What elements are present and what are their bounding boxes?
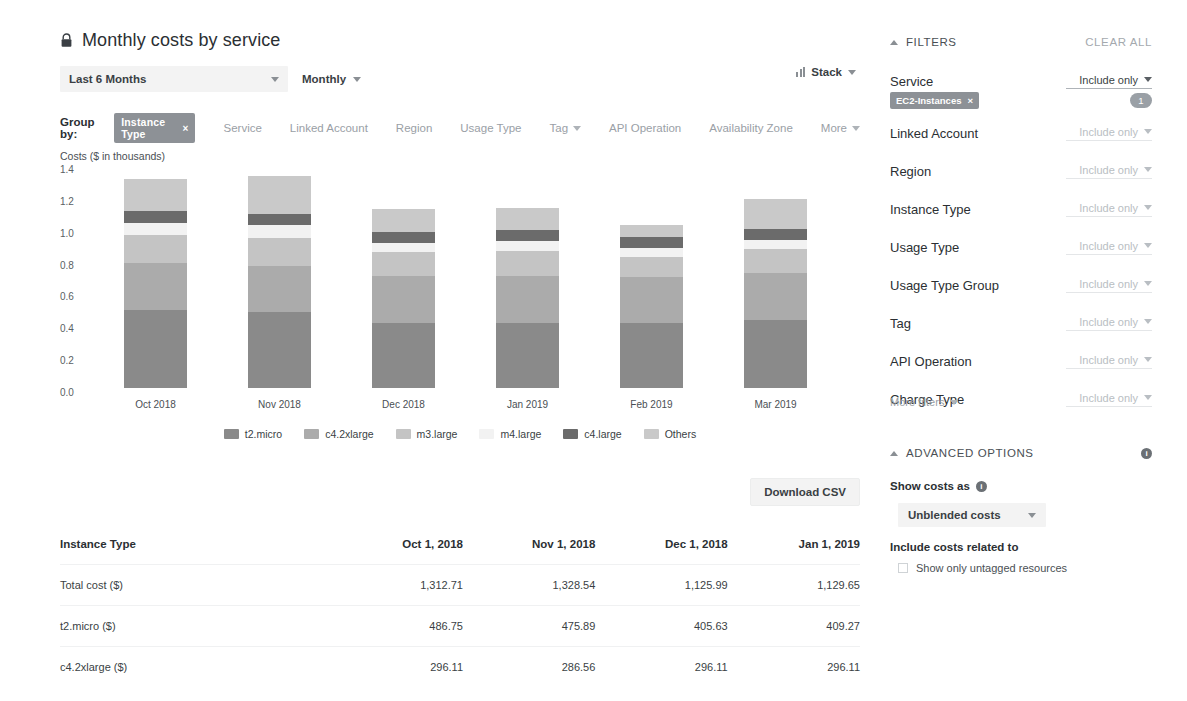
bar-chart-icon [796,67,805,77]
main-panel: Monthly costs by service Last 6 Months M… [0,0,880,701]
table-cell-value: 409.27 [728,606,860,647]
bar-segment[interactable] [744,199,807,228]
advanced-options-header[interactable]: ADVANCED OPTIONS i [890,447,1152,459]
bar-segment[interactable] [744,249,807,273]
group-by-option-more[interactable]: More [821,122,860,134]
bar-segment[interactable] [496,241,559,251]
bar-segment[interactable] [372,232,435,242]
legend-item[interactable]: m4.large [479,428,541,440]
more-filters-button[interactable]: More filters [890,396,958,408]
show-costs-as-select[interactable]: Unblended costs [898,503,1046,527]
legend-item[interactable]: t2.micro [224,428,282,440]
bar-segment[interactable] [124,211,187,223]
filter-row: TagInclude only [890,310,1152,336]
bar-segment[interactable] [372,252,435,276]
bar-segment[interactable] [248,225,311,238]
legend-item[interactable]: m3.large [396,428,458,440]
bar-segment[interactable] [372,243,435,253]
untagged-checkbox[interactable] [898,563,908,573]
bar-segment[interactable] [372,209,435,233]
chevron-down-icon [852,126,860,131]
chevron-down-icon [353,77,361,82]
bar-column[interactable] [248,176,311,388]
chevron-down-icon [573,126,581,131]
clear-all-button[interactable]: CLEAR ALL [1085,36,1152,48]
chart-controls: Last 6 Months Monthly [60,66,361,92]
filter-control[interactable]: Include only [1066,202,1152,217]
legend-swatch [479,429,494,439]
bar-column[interactable] [744,199,807,388]
bar-segment[interactable] [744,320,807,388]
filter-control[interactable]: Include only [1066,392,1152,407]
bar-column[interactable] [496,208,559,388]
filter-control-service[interactable]: Include only [1066,74,1152,89]
filters-header[interactable]: FILTERS CLEAR ALL [890,36,1152,48]
filter-control[interactable]: Include only [1066,164,1152,179]
bar-segment[interactable] [620,277,683,323]
granularity-select[interactable]: Monthly [302,66,361,92]
filter-control[interactable]: Include only [1066,126,1152,141]
group-by-option-api-operation[interactable]: API Operation [609,122,681,134]
bar-segment[interactable] [248,312,311,388]
chart-legend: t2.microc4.2xlargem3.largem4.largec4.lar… [60,428,860,440]
service-filter-chip[interactable]: EC2-Instances × [890,92,979,109]
title-row: Monthly costs by service [60,30,280,51]
group-by-option-availability-zone[interactable]: Availability Zone [709,122,793,134]
group-by-option-service[interactable]: Service [223,122,261,134]
info-icon[interactable]: i [1141,448,1152,459]
filter-control[interactable]: Include only [1066,316,1152,331]
bar-segment[interactable] [124,310,187,388]
stack-style-select[interactable]: Stack [796,66,856,78]
group-by-option-linked-account[interactable]: Linked Account [290,122,368,134]
bar-column[interactable] [124,179,187,388]
bar-segment[interactable] [248,176,311,214]
info-icon[interactable]: i [976,481,987,492]
bar-segment[interactable] [620,225,683,237]
bar-segment[interactable] [496,230,559,241]
bar-segment[interactable] [620,237,683,248]
bar-segment[interactable] [124,223,187,235]
bar-segment[interactable] [372,276,435,323]
filter-row: Instance TypeInclude only [890,196,1152,222]
bar-segment[interactable] [124,179,187,211]
bar-column[interactable] [620,225,683,388]
bar-segment[interactable] [744,240,807,250]
bar-segment[interactable] [744,273,807,320]
bar-segment[interactable] [744,229,807,240]
date-range-select[interactable]: Last 6 Months [60,66,288,92]
group-by-option-region[interactable]: Region [396,122,432,134]
bar-segment[interactable] [372,323,435,388]
close-icon[interactable]: × [967,95,973,106]
bar-segment[interactable] [248,238,311,267]
bar-segment[interactable] [248,266,311,312]
filter-control[interactable]: Include only [1066,354,1152,369]
table-header-row: Instance Type Oct 1, 2018 Nov 1, 2018 De… [60,528,860,565]
bar-segment[interactable] [496,323,559,388]
group-by-option-tag[interactable]: Tag [549,122,581,134]
bars-area [112,165,860,388]
bar-segment[interactable] [496,208,559,230]
bar-segment[interactable] [496,251,559,276]
filter-label: Instance Type [890,202,971,217]
bar-segment[interactable] [620,323,683,388]
legend-item[interactable]: c4.large [563,428,621,440]
bar-segment[interactable] [124,235,187,263]
legend-item[interactable]: c4.2xlarge [304,428,373,440]
bar-segment[interactable] [496,276,559,323]
legend-item[interactable]: Others [644,428,697,440]
untagged-resources-row[interactable]: Show only untagged resources [898,562,1067,574]
close-icon[interactable]: × [182,123,188,134]
bar-segment[interactable] [248,214,311,225]
bar-segment[interactable] [620,248,683,258]
chevron-down-icon [950,400,958,405]
y-axis-tick: 1.2 [60,196,100,207]
table-col-dec: Dec 1, 2018 [595,528,727,565]
filter-control[interactable]: Include only [1066,278,1152,293]
bar-segment[interactable] [124,263,187,310]
bar-column[interactable] [372,209,435,388]
group-by-option-usage-type[interactable]: Usage Type [460,122,521,134]
filter-control[interactable]: Include only [1066,240,1152,255]
download-csv-button[interactable]: Download CSV [750,478,860,506]
bar-segment[interactable] [620,257,683,276]
group-by-chip-instance-type[interactable]: Instance Type × [114,113,195,143]
